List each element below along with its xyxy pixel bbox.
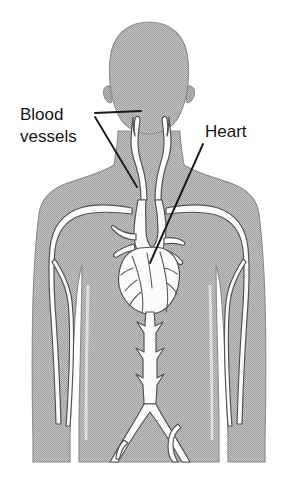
figure-root: Blood vessels Heart bbox=[0, 0, 298, 483]
blood-vessels-label-line2: vessels bbox=[20, 127, 77, 146]
left-ear-shape bbox=[103, 86, 112, 103]
right-ear-shape bbox=[186, 86, 195, 103]
head-silhouette bbox=[109, 22, 188, 134]
blood-vessels-label-line1: Blood bbox=[20, 105, 63, 124]
heart-label-line1: Heart bbox=[205, 122, 247, 141]
anatomy-diagram: Blood vessels Heart bbox=[0, 0, 298, 483]
